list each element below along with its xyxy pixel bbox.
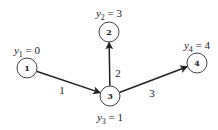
node-1: 1 (17, 58, 37, 78)
nodes-layer: 1234 (17, 22, 207, 106)
node-label: 1 (24, 63, 30, 73)
edge-weight-label: 1 (59, 84, 65, 96)
edge-3-to-2 (109, 42, 110, 86)
edge-weight-label: 2 (115, 67, 121, 79)
node-label: 4 (194, 58, 200, 68)
node-3: 3 (100, 86, 120, 106)
node-potential-label: y1 = 0 (13, 44, 41, 59)
node-4: 4 (187, 53, 207, 73)
node-potential-label: y4 = 4 (183, 39, 211, 54)
network-diagram: 1234 123y1 = 0y2 = 3y3 = 1y4 = 4 (0, 0, 218, 130)
edge-1-to-3 (36, 71, 100, 92)
node-2: 2 (99, 22, 119, 42)
edge-weight-label: 3 (149, 87, 155, 99)
node-potential-label: y3 = 1 (96, 111, 123, 126)
node-potential-label: y2 = 3 (95, 7, 123, 22)
node-label: 2 (106, 27, 112, 37)
node-label: 3 (107, 91, 113, 101)
